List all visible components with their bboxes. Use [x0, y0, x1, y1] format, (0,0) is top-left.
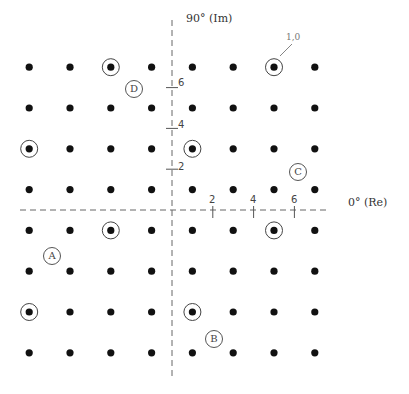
constellation-point — [270, 64, 277, 71]
region-label-a: A — [43, 247, 61, 265]
constellation-point — [230, 227, 237, 234]
region-label-c: C — [289, 163, 307, 181]
constellation-point — [26, 145, 33, 152]
constellation-point — [230, 308, 237, 315]
constellation-point — [189, 104, 196, 111]
constellation-point — [148, 308, 155, 315]
constellation-point — [270, 104, 277, 111]
point-label-leader — [280, 44, 292, 56]
x-tick-2: 2 — [209, 194, 215, 205]
x-tick-4: 4 — [250, 194, 256, 205]
imag-axis-label: 90° (Im) — [186, 12, 232, 25]
constellation-point — [107, 104, 114, 111]
constellation-point — [66, 104, 73, 111]
constellation-point — [230, 64, 237, 71]
constellation-point — [270, 308, 277, 315]
constellation-point — [66, 186, 73, 193]
constellation-point — [66, 349, 73, 356]
constellation-point — [107, 64, 114, 71]
constellation-point — [270, 145, 277, 152]
constellation-point — [26, 349, 33, 356]
constellation-point — [230, 186, 237, 193]
constellation-point — [107, 227, 114, 234]
constellation-point — [148, 145, 155, 152]
constellation-point — [107, 186, 114, 193]
constellation-point — [230, 268, 237, 275]
constellation-point — [311, 104, 318, 111]
constellation-point — [311, 349, 318, 356]
constellation-point — [26, 308, 33, 315]
constellation-point — [26, 268, 33, 275]
constellation-point — [270, 186, 277, 193]
constellation-point — [26, 186, 33, 193]
constellation-point — [189, 227, 196, 234]
real-axis-label: 0° (Re) — [348, 196, 387, 209]
constellation-point — [148, 64, 155, 71]
constellation-point — [66, 308, 73, 315]
constellation-point — [107, 308, 114, 315]
constellation-point — [107, 145, 114, 152]
constellation-point — [189, 64, 196, 71]
constellation-point — [311, 186, 318, 193]
constellation-point — [270, 349, 277, 356]
constellation-point — [270, 268, 277, 275]
constellation-point — [66, 64, 73, 71]
constellation-point — [311, 64, 318, 71]
constellation-point — [148, 268, 155, 275]
constellation-point — [189, 308, 196, 315]
constellation-point — [311, 308, 318, 315]
point-label: 1,0 — [286, 32, 300, 42]
constellation-point — [189, 186, 196, 193]
constellation-point — [107, 268, 114, 275]
constellation-point — [26, 104, 33, 111]
constellation-point — [189, 349, 196, 356]
constellation-point — [311, 268, 318, 275]
y-tick-2: 2 — [178, 161, 184, 172]
y-tick-6: 6 — [178, 77, 184, 88]
constellation-point — [66, 145, 73, 152]
constellation-point — [26, 227, 33, 234]
constellation-point — [26, 64, 33, 71]
y-tick-4: 4 — [178, 119, 184, 130]
constellation-point — [230, 349, 237, 356]
constellation-point — [311, 227, 318, 234]
region-label-b: B — [205, 330, 223, 348]
constellation-point — [66, 227, 73, 234]
x-tick-6: 6 — [291, 194, 297, 205]
constellation-point — [189, 145, 196, 152]
constellation-point — [230, 145, 237, 152]
constellation-point — [107, 349, 114, 356]
constellation-point — [189, 268, 196, 275]
region-label-d: D — [125, 80, 143, 98]
constellation-point — [230, 104, 237, 111]
constellation-point — [270, 227, 277, 234]
constellation-point — [148, 104, 155, 111]
constellation-point — [148, 186, 155, 193]
constellation-point — [148, 349, 155, 356]
constellation-point — [311, 145, 318, 152]
constellation-point — [148, 227, 155, 234]
constellation-point — [66, 268, 73, 275]
